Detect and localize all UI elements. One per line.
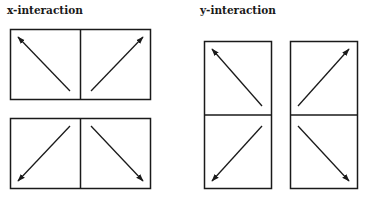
arrow-up-right-icon [298,49,349,106]
x-interaction-bottom-group [11,119,151,189]
arrow-up-right-icon [91,37,143,91]
arrow-down-left-icon [212,126,262,181]
y-interaction-right-group [291,42,358,189]
y-interaction-left-group [205,42,272,189]
arrow-down-right-icon [298,126,349,181]
arrow-down-left-icon [18,126,70,181]
interaction-diagram [0,0,370,199]
arrow-down-right-icon [91,126,143,181]
x-interaction-top-group [11,30,151,100]
arrow-up-left-icon [212,49,262,106]
arrow-up-left-icon [18,37,70,91]
